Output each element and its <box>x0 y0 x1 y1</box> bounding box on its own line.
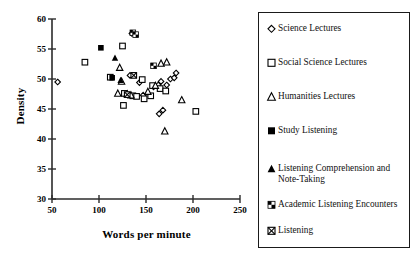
y-tick-label: 35 <box>26 164 46 174</box>
open-triangle-icon <box>266 91 277 102</box>
x-tick-label: 100 <box>85 205 113 215</box>
data-point <box>98 45 104 51</box>
data-point <box>145 88 151 94</box>
data-point <box>179 97 185 103</box>
x-tick-label: 200 <box>179 205 207 215</box>
crossed-square-icon <box>266 225 277 236</box>
data-point <box>115 90 121 96</box>
legend-item-label: Science Lectures <box>278 23 341 34</box>
data-point <box>163 88 169 94</box>
legend-item[interactable]: Study Listening <box>266 125 408 136</box>
legend-item[interactable]: Listening <box>266 225 408 236</box>
y-tick-label: 40 <box>26 134 46 144</box>
filled-triangle-icon <box>266 163 277 174</box>
data-point <box>131 73 137 79</box>
x-tick-label: 50 <box>38 205 66 215</box>
y-tick-label: 60 <box>26 14 46 24</box>
x-axis-title: Words per minute <box>52 228 241 240</box>
data-point <box>82 59 88 65</box>
legend-item[interactable]: Academic Listening Encounters <box>266 199 408 210</box>
data-points <box>55 30 199 134</box>
legend-item-label: Social Science Lectures <box>278 57 367 68</box>
filled-square-icon <box>266 125 277 136</box>
axis-ticks <box>48 19 240 203</box>
scatter-plot-svg <box>0 0 250 260</box>
open-diamond-icon <box>266 23 277 34</box>
legend-item[interactable]: Humanities Lectures <box>266 91 408 102</box>
chart-figure: 50100150200250 30354045505560 Words per … <box>0 0 418 260</box>
data-point <box>139 77 145 83</box>
plot-area: 50100150200250 30354045505560 Words per … <box>0 0 250 260</box>
legend-item-label: Study Listening <box>278 125 337 136</box>
open-square-icon <box>266 57 277 68</box>
data-point <box>120 43 126 49</box>
data-point <box>164 82 170 88</box>
data-point <box>55 79 61 85</box>
legend-item[interactable]: Listening Comprehension and Note-Taking <box>266 163 408 184</box>
data-point <box>124 92 130 98</box>
legend-item[interactable]: Social Science Lectures <box>266 57 408 68</box>
legend-item-label: Humanities Lectures <box>278 91 355 102</box>
data-point <box>133 32 139 38</box>
data-point <box>163 59 169 65</box>
data-point <box>193 109 199 115</box>
y-tick-label: 50 <box>26 74 46 84</box>
legend-box: Science LecturesSocial Science LecturesH… <box>258 12 410 248</box>
data-point <box>141 96 147 102</box>
x-tick-label: 250 <box>226 205 254 215</box>
y-tick-label: 55 <box>26 44 46 54</box>
legend-item-label: Academic Listening Encounters <box>278 199 397 210</box>
data-point <box>151 63 157 69</box>
data-point <box>109 75 115 81</box>
data-point <box>116 64 122 70</box>
y-tick-label: 45 <box>26 104 46 114</box>
data-point <box>162 128 168 134</box>
y-tick-label: 30 <box>26 194 46 204</box>
legend-item[interactable]: Science Lectures <box>266 23 408 34</box>
legend-item-label: Listening <box>278 225 313 236</box>
data-point <box>121 103 127 109</box>
y-axis-title: Density <box>14 66 26 146</box>
data-point <box>112 55 118 61</box>
axis-lines <box>52 19 240 199</box>
x-tick-label: 150 <box>132 205 160 215</box>
legend-item-label: Listening Comprehension and Note-Taking <box>278 163 408 184</box>
checker-square-icon <box>266 199 277 210</box>
